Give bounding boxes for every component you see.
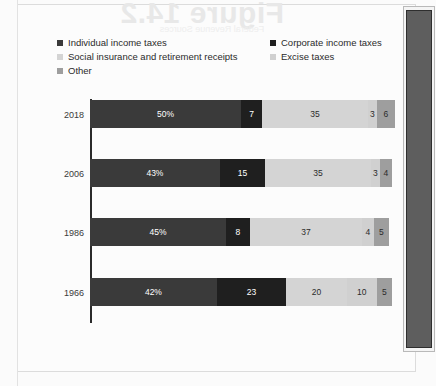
legend-swatch-icon (57, 54, 63, 60)
legend-item-label: Social insurance and retirement receipts (68, 52, 238, 62)
legend-swatch-icon (57, 68, 63, 74)
legend-item: Social insurance and retirement receipts (57, 52, 238, 62)
legend-item-label: Individual income taxes (68, 38, 167, 48)
legend-item-label: Corporate income taxes (281, 38, 382, 48)
legend-swatch-icon (270, 54, 276, 60)
legend-item-label: Other (68, 66, 92, 76)
legend-item: Other (57, 66, 92, 76)
scanned-page-surface: Figure 14.2 Federal Revenue Sources Indi… (0, 0, 436, 386)
legend-item-label: Excise taxes (281, 52, 334, 62)
legend-item: Excise taxes (270, 52, 334, 62)
legend-item: Individual income taxes (57, 38, 167, 48)
page-edge-dark-band (406, 10, 432, 348)
page-left-fold-line (17, 0, 18, 386)
legend-swatch-icon (270, 40, 276, 46)
legend-item: Corporate income taxes (270, 38, 382, 48)
legend-swatch-icon (57, 40, 63, 46)
